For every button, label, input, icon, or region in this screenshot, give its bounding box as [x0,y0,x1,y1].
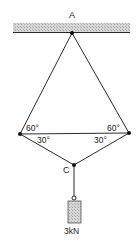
joints [18,31,131,167]
angle-right-top: 60° [107,123,120,133]
label-A: A [69,10,75,20]
member-A-right [72,33,129,133]
angle-right-bottom: 30° [94,135,107,145]
member-A-left [20,33,72,134]
hook-ring [72,196,76,200]
truss-members [20,33,129,196]
joint-left [18,132,22,136]
weight-block [68,201,81,223]
label-C: C [63,165,70,175]
joint-right [127,131,131,135]
angle-left-top: 60° [26,123,39,133]
load-label: 3kN [64,226,79,236]
member-left-right [20,133,129,134]
angle-left-bottom: 30° [37,135,50,145]
joint-C [72,163,76,167]
truss-diagram: A C 60° 30° 60° 30° 3kN [0,0,140,251]
joint-A [70,31,74,35]
